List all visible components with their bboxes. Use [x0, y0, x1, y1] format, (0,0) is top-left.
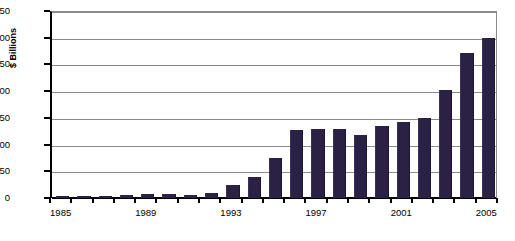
bar-1995	[269, 158, 282, 198]
x-axis-tick-mark	[241, 198, 243, 203]
x-axis-tick-mark	[177, 198, 179, 203]
bar-2003	[439, 90, 452, 198]
bar-1996	[290, 130, 303, 198]
x-axis-tick-mark	[347, 198, 349, 203]
x-axis-tick-mark	[262, 198, 264, 203]
y-axis-tick-label: 250	[0, 59, 10, 69]
bar-1987	[99, 196, 112, 198]
x-axis-tick-mark	[496, 198, 498, 203]
y-axis-tick-label: 350	[0, 6, 10, 16]
plot-area	[50, 11, 497, 198]
plot-inner	[52, 12, 496, 198]
x-axis-tick-label-2005: 2005	[463, 207, 509, 218]
x-axis-tick-mark	[134, 198, 136, 203]
x-axis-tick-mark	[155, 198, 157, 203]
y-axis-tick-label: 300	[0, 33, 10, 43]
bar-1993	[226, 185, 239, 198]
bar-1991	[184, 195, 197, 198]
bar-2005	[482, 38, 495, 198]
x-axis-tick-mark	[432, 198, 434, 203]
gridline-250	[52, 65, 496, 66]
bar-1990	[162, 194, 175, 198]
bar-2001	[397, 122, 410, 198]
x-axis-tick-mark	[326, 198, 328, 203]
bar-1994	[248, 177, 261, 198]
x-axis-tick-mark	[70, 198, 72, 203]
bar-1988	[120, 195, 133, 198]
bar-1986	[77, 196, 90, 198]
bar-1998	[333, 129, 346, 198]
x-axis-tick-label-1993: 1993	[208, 207, 254, 218]
bar-1997	[311, 129, 324, 198]
x-axis-tick-mark	[92, 198, 94, 203]
x-axis-tick-mark	[475, 198, 477, 203]
x-axis-tick-mark	[304, 198, 306, 203]
bar-1999	[354, 135, 367, 198]
y-axis-tick-label: 100	[0, 140, 10, 150]
x-axis-tick-mark	[198, 198, 200, 203]
bar-1989	[141, 194, 154, 198]
x-axis-tick-label-1997: 1997	[293, 207, 339, 218]
bar-2002	[418, 118, 431, 198]
x-axis-tick-label-1989: 1989	[123, 207, 169, 218]
x-axis-tick-mark	[49, 198, 51, 203]
x-axis-tick-mark	[390, 198, 392, 203]
bar-1985	[56, 196, 69, 198]
gridline-200	[52, 92, 496, 93]
x-axis-tick-mark	[113, 198, 115, 203]
x-axis-tick-mark	[411, 198, 413, 203]
x-axis-tick-label-2001: 2001	[378, 207, 424, 218]
y-axis-tick-label: 0	[0, 193, 10, 203]
x-axis-tick-mark	[453, 198, 455, 203]
y-axis-tick-label: 200	[0, 86, 10, 96]
gridline-350	[52, 12, 496, 13]
x-axis-tick-label-1985: 1985	[38, 207, 84, 218]
x-axis-tick-mark	[219, 198, 221, 203]
gridline-300	[52, 39, 496, 40]
bar-1992	[205, 193, 218, 198]
x-axis-tick-mark	[283, 198, 285, 203]
y-axis-tick-label: 50	[0, 166, 10, 176]
y-axis-tick-label: 150	[0, 113, 10, 123]
x-axis-tick-mark	[368, 198, 370, 203]
bar-chart: $ Billions 050100150200250300350 1985198…	[0, 0, 515, 241]
y-axis-title: $ Billions	[8, 8, 18, 88]
bar-2004	[460, 53, 473, 198]
bar-2000	[375, 126, 388, 198]
